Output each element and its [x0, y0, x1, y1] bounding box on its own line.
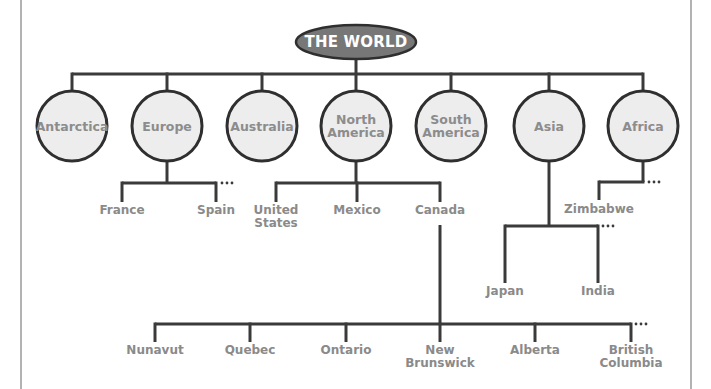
british-columbia-line2: Columbia: [599, 357, 662, 370]
country-label-spain: Spain: [197, 204, 235, 217]
asia-connectors: [505, 161, 614, 283]
continent-label-south-america: South America: [422, 113, 479, 139]
country-label-france: France: [99, 204, 144, 217]
country-label-japan: Japan: [486, 285, 524, 298]
new-brunswick-line2: Brunswick: [405, 357, 475, 370]
canada-connectors: [155, 225, 647, 342]
province-label-ontario: Ontario: [321, 344, 372, 357]
province-label-nunavut: Nunavut: [126, 344, 183, 357]
north-america-connectors: [276, 160, 440, 202]
continent-label-australia: Australia: [230, 120, 294, 133]
world-hierarchy-diagram: [0, 0, 711, 389]
root-label: THE WORLD: [305, 36, 408, 49]
asia-more-dots: [602, 225, 615, 228]
province-label-alberta: Alberta: [510, 344, 560, 357]
country-label-united-states: United States: [254, 204, 299, 230]
europe-more-dots: [221, 182, 234, 185]
africa-more-dots: [648, 181, 661, 184]
province-label-quebec: Quebec: [225, 344, 276, 357]
continent-label-africa: Africa: [622, 120, 663, 133]
continent-label-antarctica: Antarctica: [36, 120, 109, 133]
europe-connectors: [122, 160, 233, 202]
canada-more-dots: [635, 323, 648, 326]
continent-label-north-america: North America: [327, 113, 384, 139]
province-label-british-columbia: British Columbia: [599, 344, 662, 370]
country-label-zimbabwe: Zimbabwe: [564, 203, 634, 216]
province-label-new-brunswick: New Brunswick: [405, 344, 475, 370]
united-states-line2: States: [254, 217, 299, 230]
country-label-mexico: Mexico: [333, 204, 380, 217]
country-label-india: India: [581, 285, 615, 298]
continent-label-asia: Asia: [534, 120, 564, 133]
africa-connectors: [599, 160, 660, 200]
country-label-canada: Canada: [415, 204, 465, 217]
continent-label-europe: Europe: [142, 120, 192, 133]
